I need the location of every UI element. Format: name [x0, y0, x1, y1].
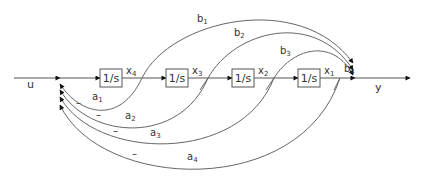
gain-a4: a4	[187, 151, 198, 164]
sign-a1: –	[76, 97, 81, 108]
integrator-block-4: 1/s	[298, 69, 320, 87]
block-diagram: 1/s 1/s 1/s 1/s x4 x3 x2 x1 u y b1 b2 b3…	[0, 0, 428, 178]
integrator-block-2: 1/s	[166, 69, 188, 87]
input-label: u	[27, 78, 34, 91]
sign-a4: –	[132, 148, 137, 159]
integrator-block-1: 1/s	[100, 69, 122, 87]
state-x2: x2	[258, 65, 268, 78]
gain-a1: a1	[92, 91, 103, 104]
gain-b1: b1	[197, 13, 208, 26]
sign-a3: –	[113, 125, 118, 136]
gain-a2: a2	[125, 110, 136, 123]
state-x3: x3	[192, 65, 202, 78]
feedback-paths	[60, 78, 340, 169]
state-x1: x1	[324, 65, 334, 78]
integrator-block-3: 1/s	[232, 69, 254, 87]
block-label: 1/s	[235, 72, 252, 85]
feedforward-labels: b1 b2 b3 b4	[197, 13, 355, 76]
state-x4: x4	[126, 65, 137, 78]
block-label: 1/s	[169, 72, 186, 85]
sign-a2: –	[96, 109, 101, 120]
gain-b3: b3	[280, 45, 291, 58]
block-label: 1/s	[301, 72, 318, 85]
output-label: y	[375, 81, 382, 94]
gain-a3: a3	[150, 127, 161, 140]
block-label: 1/s	[103, 72, 120, 85]
gain-b4: b4	[344, 63, 355, 76]
gain-b2: b2	[234, 27, 245, 40]
